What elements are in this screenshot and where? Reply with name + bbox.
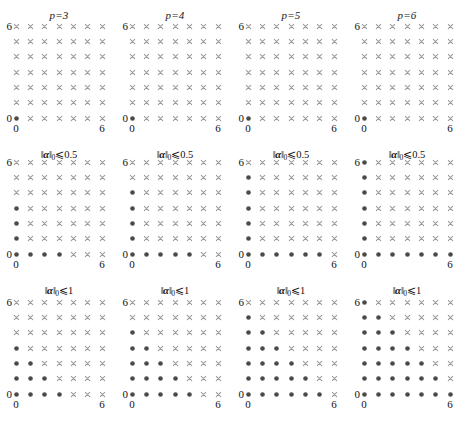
marker-excluded <box>40 37 49 46</box>
marker-excluded <box>156 173 165 182</box>
plot-area <box>132 302 218 394</box>
marker-excluded <box>244 68 253 77</box>
marker-excluded <box>199 98 208 107</box>
marker-excluded <box>388 52 397 61</box>
marker-excluded <box>142 313 151 322</box>
marker-excluded <box>40 219 49 228</box>
marker-excluded <box>374 158 383 167</box>
marker-excluded <box>26 114 35 123</box>
marker-excluded <box>55 313 64 322</box>
marker-excluded <box>388 298 397 307</box>
marker-excluded <box>446 98 455 107</box>
marker-excluded <box>55 374 64 383</box>
marker-excluded <box>214 37 223 46</box>
y-axis-max-label: 6 <box>239 21 245 32</box>
panel-title-p4: p=4 <box>132 9 218 21</box>
y-axis-min-label: 0 <box>123 389 129 400</box>
marker-included <box>388 390 397 399</box>
panel-p3-q2: 6006‖α‖0⩽2 <box>16 302 102 394</box>
marker-included <box>374 328 383 337</box>
marker-excluded <box>12 52 21 61</box>
marker-excluded <box>431 234 440 243</box>
y-axis-max-label: 6 <box>7 157 13 168</box>
marker-excluded <box>83 328 92 337</box>
marker-excluded <box>417 234 426 243</box>
marker-included <box>128 344 137 353</box>
marker-excluded <box>26 219 35 228</box>
marker-excluded <box>156 52 165 61</box>
marker-included <box>142 344 151 353</box>
marker-excluded <box>431 344 440 353</box>
marker-excluded <box>55 234 64 243</box>
caption-value: 1 <box>184 285 189 296</box>
marker-included <box>431 250 440 259</box>
marker-excluded <box>214 22 223 31</box>
x-axis-max-label: 6 <box>331 123 337 134</box>
marker-excluded <box>12 68 21 77</box>
marker-excluded <box>446 328 455 337</box>
marker-excluded <box>40 328 49 337</box>
x-axis-max-label: 6 <box>215 399 221 410</box>
marker-excluded <box>185 344 194 353</box>
caption-relation: ⩽ <box>407 285 416 296</box>
marker-excluded <box>156 37 165 46</box>
plot-area <box>248 162 334 254</box>
marker-included <box>185 250 194 259</box>
marker-excluded <box>142 37 151 46</box>
marker-excluded <box>55 114 64 123</box>
y-axis-min-label: 0 <box>123 113 129 124</box>
marker-excluded <box>214 204 223 213</box>
marker-excluded <box>156 114 165 123</box>
marker-included <box>388 344 397 353</box>
plot-area <box>364 162 450 254</box>
marker-excluded <box>199 114 208 123</box>
marker-excluded <box>244 52 253 61</box>
marker-included <box>244 173 253 182</box>
y-axis-min-label: 0 <box>123 249 129 260</box>
marker-excluded <box>272 313 281 322</box>
marker-excluded <box>403 68 412 77</box>
marker-excluded <box>417 158 426 167</box>
marker-excluded <box>83 344 92 353</box>
marker-excluded <box>83 68 92 77</box>
marker-excluded <box>244 298 253 307</box>
marker-excluded <box>142 83 151 92</box>
marker-excluded <box>12 158 21 167</box>
marker-included <box>417 390 426 399</box>
marker-excluded <box>360 52 369 61</box>
marker-excluded <box>98 374 107 383</box>
marker-included <box>128 188 137 197</box>
marker-excluded <box>171 37 180 46</box>
marker-excluded <box>171 68 180 77</box>
marker-excluded <box>388 158 397 167</box>
marker-excluded <box>214 173 223 182</box>
x-axis-max-label: 6 <box>215 259 221 270</box>
marker-excluded <box>287 328 296 337</box>
marker-excluded <box>69 298 78 307</box>
marker-excluded <box>40 173 49 182</box>
marker-excluded <box>83 37 92 46</box>
marker-excluded <box>98 83 107 92</box>
marker-excluded <box>185 204 194 213</box>
marker-excluded <box>69 173 78 182</box>
marker-included <box>272 374 281 383</box>
marker-excluded <box>98 344 107 353</box>
marker-excluded <box>40 313 49 322</box>
marker-excluded <box>83 234 92 243</box>
marker-excluded <box>171 98 180 107</box>
marker-excluded <box>199 313 208 322</box>
marker-excluded <box>330 374 339 383</box>
marker-excluded <box>156 298 165 307</box>
marker-excluded <box>417 188 426 197</box>
marker-excluded <box>315 22 324 31</box>
marker-excluded <box>26 158 35 167</box>
marker-excluded <box>301 328 310 337</box>
marker-included <box>417 359 426 368</box>
marker-excluded <box>199 158 208 167</box>
panel-title-p5: p=5 <box>248 9 334 21</box>
marker-excluded <box>156 68 165 77</box>
marker-excluded <box>55 188 64 197</box>
panel-caption: ‖α‖0⩽1 <box>132 284 218 298</box>
marker-excluded <box>12 173 21 182</box>
y-axis-max-label: 6 <box>7 297 13 308</box>
